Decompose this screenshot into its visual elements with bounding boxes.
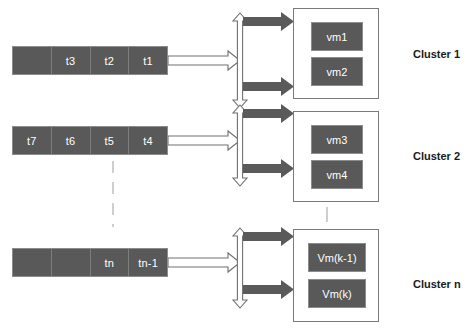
solid-arrow-splittern-bottom: [243, 280, 294, 299]
vm-box: Vm(k-1): [308, 243, 366, 272]
task-cell: tn: [91, 249, 130, 276]
hollow-arrow-queue1-to-splitter: [168, 51, 240, 70]
task-cell: t2: [91, 47, 130, 74]
task-cell: [13, 47, 52, 74]
cluster-box-n: Vm(k-1) Vm(k): [293, 229, 379, 322]
task-cell: t4: [129, 127, 167, 154]
vm-box: vm4: [311, 160, 363, 189]
task-queue-n: tn tn-1: [12, 248, 168, 277]
solid-arrow-splitter2-top: [243, 104, 294, 123]
solid-arrow-splittern-top: [243, 227, 294, 246]
task-cell: t1: [129, 47, 167, 74]
cluster-box-2: vm3 vm4: [293, 111, 379, 202]
task-cell: tn-1: [129, 249, 167, 276]
hollow-arrow-queuen-to-splitter: [168, 253, 240, 272]
vm-box: vm3: [311, 125, 363, 154]
task-cell: t6: [52, 127, 91, 154]
task-cell: [52, 249, 91, 276]
cluster-label-1: Cluster 1: [413, 48, 460, 60]
cluster-label-n: Cluster n: [413, 278, 461, 290]
vm-box: vm2: [311, 57, 363, 86]
solid-arrow-splitter1-top: [243, 12, 294, 31]
cluster-label-2: Cluster 2: [413, 150, 460, 162]
hollow-arrow-queue2-to-splitter: [168, 131, 240, 150]
task-cell: t5: [91, 127, 130, 154]
diagram-canvas: t3 t2 t1 t7 t6 t5 t4 tn tn-1 vm1 vm2 Clu…: [0, 0, 469, 331]
vm-box: vm1: [311, 22, 363, 51]
task-cell: t3: [52, 47, 91, 74]
solid-arrow-splitter2-bottom: [243, 159, 294, 178]
task-cell: [13, 249, 52, 276]
task-queue-2: t7 t6 t5 t4: [12, 126, 168, 155]
vm-box: Vm(k): [308, 279, 366, 308]
task-cell: t7: [13, 127, 52, 154]
task-queue-1: t3 t2 t1: [12, 46, 168, 75]
cluster-box-1: vm1 vm2: [293, 8, 379, 99]
solid-arrow-splitter1-bottom: [243, 77, 294, 96]
